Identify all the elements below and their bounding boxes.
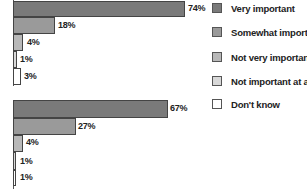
bar-bottom-somewhat-important	[13, 118, 76, 135]
legend-label: Not important at all	[231, 76, 307, 87]
value-label: 1%	[20, 54, 32, 64]
value-label: 1%	[20, 156, 32, 166]
legend-label: Don't know	[231, 99, 280, 110]
value-label: 4%	[27, 37, 39, 47]
bar-bottom-not-important-at-all	[13, 152, 16, 170]
bar-top-somewhat-important	[13, 17, 55, 34]
bar-top-not-important-at-all	[13, 51, 17, 68]
legend-swatch-dont-know	[212, 99, 222, 109]
legend-label: Very important	[231, 3, 295, 14]
legend-swatch-not-very-important	[212, 52, 222, 62]
legend-label: Not very important	[231, 52, 307, 63]
value-label: 67%	[170, 103, 187, 113]
legend-swatch-somewhat-important	[212, 27, 222, 37]
value-label: 3%	[24, 71, 36, 81]
legend-swatch-not-important-at-all	[212, 76, 222, 86]
bar-top-dont-know	[13, 68, 21, 85]
value-label: 27%	[78, 121, 95, 131]
value-label: 18%	[58, 20, 75, 30]
value-label: 1%	[20, 172, 32, 182]
legend-label: Somewhat important	[231, 27, 307, 38]
bar-bottom-not-very-important	[13, 135, 23, 152]
bar-bottom-very-important	[13, 100, 168, 118]
bar-top-not-very-important	[13, 34, 23, 51]
value-label: 4%	[26, 137, 38, 147]
bar-top-very-important	[13, 1, 185, 17]
value-label: 74%	[188, 3, 205, 13]
legend-swatch-very-important	[212, 3, 222, 13]
bar-bottom-dont-know	[13, 170, 16, 186]
